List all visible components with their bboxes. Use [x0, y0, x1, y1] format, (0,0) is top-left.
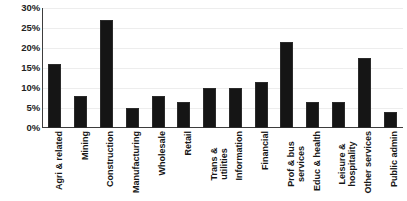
x-axis-label-slot: Financial — [248, 130, 274, 201]
bar[interactable] — [384, 112, 397, 128]
bar-slot — [274, 8, 300, 128]
x-axis-label-slot: Retail — [171, 130, 197, 201]
y-axis-tick-label: 10% — [2, 83, 40, 93]
y-axis-tick-label: 5% — [2, 103, 40, 113]
x-axis-label-slot: Information — [222, 130, 248, 201]
x-axis-label-slot: Leisure &hospitality — [326, 130, 352, 201]
bar[interactable] — [152, 96, 165, 128]
x-axis-label-slot: Mining — [68, 130, 94, 201]
x-axis-tick-label: Agri & related — [55, 131, 65, 190]
plot-area — [42, 8, 403, 128]
x-axis-tick-label: Wholesale — [158, 131, 168, 176]
bar-slot — [42, 8, 68, 128]
x-axis-tick-label: Financial — [261, 131, 271, 170]
bar-slot — [248, 8, 274, 128]
bar[interactable] — [280, 42, 293, 128]
x-axis-labels: Agri & relatedMiningConstructionManufact… — [42, 130, 403, 201]
bar[interactable] — [229, 88, 242, 128]
x-axis-tick-label: Construction — [106, 131, 116, 187]
x-axis-label-slot: Construction — [94, 130, 120, 201]
bar-slot — [300, 8, 326, 128]
y-axis-tick-label: 15% — [2, 63, 40, 73]
bar[interactable] — [126, 108, 139, 128]
y-axis-tick-label: 30% — [2, 3, 40, 13]
x-axis-label-slot: Educ & health — [300, 130, 326, 201]
bar-slot — [68, 8, 94, 128]
bar[interactable] — [100, 20, 113, 128]
x-axis-label-slot: Other services — [351, 130, 377, 201]
bar-slot — [145, 8, 171, 128]
x-axis-tick-label: Information — [235, 131, 245, 181]
bar[interactable] — [332, 102, 345, 128]
x-axis-tick-label: Other services — [364, 131, 374, 194]
bar-slot — [119, 8, 145, 128]
x-axis-tick-label: Mining — [81, 131, 91, 160]
bar-chart: 30%25%20%15%10%5%0% Agri & relatedMining… — [0, 0, 407, 201]
x-axis-label-slot: Agri & related — [42, 130, 68, 201]
x-axis-tick-label: Public admin — [390, 131, 400, 187]
bar-slot — [377, 8, 403, 128]
bar[interactable] — [255, 82, 268, 128]
bar[interactable] — [306, 102, 319, 128]
bar[interactable] — [74, 96, 87, 128]
x-axis-label-slot: Wholesale — [145, 130, 171, 201]
bar-slot — [171, 8, 197, 128]
x-axis-label-slot: Trans &utilities — [197, 130, 223, 201]
bar-slot — [197, 8, 223, 128]
bar-series — [42, 8, 403, 128]
y-axis-tick-label: 0% — [2, 123, 40, 133]
y-axis: 30%25%20%15%10%5%0% — [0, 8, 40, 128]
x-axis-tick-label: Manufacturing — [132, 131, 142, 193]
bar-slot — [222, 8, 248, 128]
x-axis-label-slot: Prof & busservices — [274, 130, 300, 201]
x-axis-label-slot: Manufacturing — [119, 130, 145, 201]
x-axis-tick-label: Educ & health — [313, 131, 323, 191]
x-axis-label-slot: Public admin — [377, 130, 403, 201]
bar-slot — [326, 8, 352, 128]
bar-slot — [351, 8, 377, 128]
bar[interactable] — [177, 102, 190, 128]
bar[interactable] — [48, 64, 61, 128]
bar[interactable] — [358, 58, 371, 128]
bar[interactable] — [203, 88, 216, 128]
y-axis-tick-label: 25% — [2, 23, 40, 33]
y-axis-tick-label: 20% — [2, 43, 40, 53]
x-axis-tick-label: Retail — [184, 131, 194, 156]
bar-slot — [94, 8, 120, 128]
